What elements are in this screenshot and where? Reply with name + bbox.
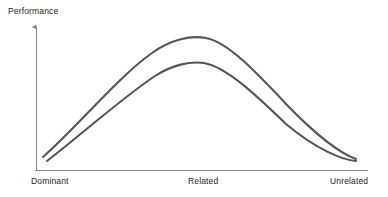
x-tick-label-unrelated: Unrelated	[330, 176, 368, 186]
inverted-u-performance-chart	[0, 0, 388, 197]
y-axis-title: Performance	[8, 6, 58, 16]
lower-curve	[47, 63, 356, 161]
x-tick-label-dominant: Dominant	[31, 176, 69, 186]
curves-group	[43, 37, 356, 161]
x-tick-label-related: Related	[188, 176, 218, 186]
axes-group	[35, 27, 368, 171]
